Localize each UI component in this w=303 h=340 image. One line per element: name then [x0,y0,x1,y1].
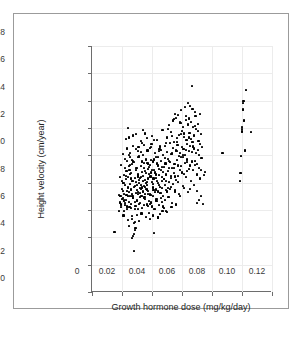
scatter-point [221,152,223,154]
scatter-point [147,162,149,164]
x-tick-mark [272,292,273,296]
scatter-point [182,185,184,187]
scatter-point [196,202,198,204]
scatter-point [149,175,151,177]
scatter-point [189,164,191,166]
scatter-point [126,208,128,210]
scatter-point [142,180,144,182]
scatter-point [197,130,199,132]
scatter-point [188,132,190,134]
scatter-point [122,214,124,216]
scatter-point [140,212,142,214]
scatter-point [137,146,139,148]
x-tick-mark [152,292,153,296]
scatter-point [130,203,132,205]
scatter-point [185,115,187,117]
scatter-point [245,89,247,91]
scatter-point [159,213,161,215]
scatter-point [145,216,147,218]
scatter-point [197,123,199,125]
figure-outer-frame: 00.020.040.060.080.100.12 02468101214161… [13,13,289,309]
scatter-point [153,139,155,141]
scatter-point [199,177,201,179]
scatter-point [154,191,156,193]
scatter-point [165,180,167,182]
scatter-point [138,179,140,181]
figure-container: 00.020.040.060.080.100.12 02468101214161… [0,0,303,340]
scatter-point [144,132,146,134]
scatter-point [131,215,133,217]
scatter-point [190,138,192,140]
scatter-point [241,126,243,128]
y-axis-label: Height velocity (cm/year) [36,119,46,218]
scatter-point [200,195,202,197]
scatter-point [140,176,142,178]
y-tick-label: 10 [0,136,5,146]
scatter-point [169,142,171,144]
scatter-point [134,227,136,229]
scatter-point [203,174,205,176]
scatter-point [146,149,148,151]
scatter-point [160,160,162,162]
scatter-point [186,161,188,163]
scatter-point [187,123,189,125]
scatter-point [129,183,131,185]
scatter-point [118,210,120,212]
scatter-point [132,145,134,147]
scatter-point [158,204,160,206]
scatter-point [126,160,128,162]
scatter-point [152,189,154,191]
scatter-point [180,165,182,167]
scatter-point [167,170,169,172]
x-axis-label: Growth hormone dose (mg/kg/day) [91,302,271,312]
scatter-point [164,184,166,186]
scatter-point [159,145,161,147]
scatter-point [163,166,165,168]
scatter-point [162,171,164,173]
scatter-point [143,162,145,164]
scatter-point [202,203,204,205]
y-tick-label: 16 [0,54,5,64]
scatter-point [180,156,182,158]
scatter-point [157,164,159,166]
scatter-point [161,187,163,189]
scatter-point [131,237,133,239]
scatter-point [173,118,175,120]
scatter-point [143,204,145,206]
scatter-point [125,175,127,177]
scatter-point [192,169,194,171]
scatter-point [128,225,130,227]
y-tick-mark [88,292,92,293]
scatter-point [197,149,199,151]
scatter-point [130,188,132,190]
scatter-point [127,127,129,129]
scatter-point [186,143,188,145]
y-tick-label: 2 [0,246,5,256]
scatter-point [122,190,124,192]
scatter-point [186,170,188,172]
scatter-point [176,159,178,161]
scatter-point [184,154,186,156]
scatter-point [176,150,178,152]
scatter-point [167,128,169,130]
scatter-point [191,151,193,153]
scatter-point [148,212,150,214]
x-tick-label: 0.10 [219,266,236,276]
scatter-point [152,214,154,216]
scatter-point [243,119,245,121]
scatter-point [131,218,133,220]
scatter-point [135,133,137,135]
x-tick-mark [92,292,93,296]
scatter-point [166,190,168,192]
scatter-point [134,185,136,187]
scatter-point [191,141,193,143]
scatter-point [168,160,170,162]
scatter-point [160,197,162,199]
scatter-point [244,149,246,151]
scatter-point [175,117,177,119]
scatter-point [193,134,195,136]
scatter-point [128,169,130,171]
y-tick-label: 4 [0,218,5,228]
scatter-point [185,139,187,141]
scatter-point [125,178,127,180]
